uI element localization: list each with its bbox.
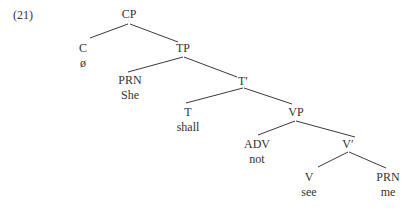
edge-tbar-t [186, 88, 243, 103]
node-adv: ADV [244, 138, 270, 150]
node-prn-subject: PRN [118, 74, 141, 86]
word-me: me [381, 186, 396, 198]
word-c: ø [80, 57, 86, 69]
node-c: C [79, 42, 87, 54]
word-she: She [121, 89, 139, 101]
word-see: see [301, 186, 316, 198]
edge-vp-adv [258, 121, 295, 135]
example-number: (21) [13, 9, 33, 21]
node-v: V [305, 171, 314, 183]
word-shall: shall [177, 121, 200, 133]
word-not: not [249, 153, 264, 165]
node-vp: VP [288, 106, 303, 118]
edge-vbar-v [318, 152, 348, 167]
edge-cp-c [90, 24, 128, 38]
edge-tp-prn [128, 57, 183, 72]
edge-vbar-prn [349, 152, 386, 168]
node-t: T [184, 106, 191, 118]
syntax-tree-diagram: (21) CP C ø TP PRN She T′ T shall VP ADV… [0, 0, 412, 209]
node-t-bar: T′ [238, 75, 248, 87]
edge-vp-vbar [296, 121, 355, 137]
node-tp: TP [176, 42, 190, 54]
edge-tp-tbar [184, 57, 237, 77]
edge-tbar-vp [244, 88, 292, 104]
node-v-bar: V′ [342, 138, 353, 150]
node-prn-object: PRN [376, 171, 399, 183]
edge-cp-tp [130, 24, 178, 42]
node-cp: CP [122, 8, 137, 20]
tree-edges [0, 0, 412, 209]
